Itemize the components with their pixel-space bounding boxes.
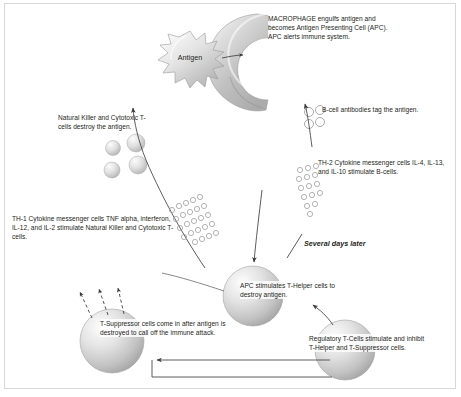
apc-to-tsuppressor-line [162, 273, 224, 291]
t-suppressor-label: T-Suppressor cells come in after antigen… [100, 319, 227, 337]
b-cell-tag-arrow [305, 104, 312, 147]
killer-cell-cluster [104, 134, 147, 178]
immune-system-diagram: MACROPHAGE engulfs antigen and becomes A… [0, 0, 461, 397]
nk-destroy-antigen-arrow [133, 108, 205, 268]
b-cell-label: B-cell antibodies tag the antigen. [322, 105, 422, 114]
apc-label: APC stimulates T-Helper cells to destroy… [240, 281, 352, 299]
th1-cytokine-label: TH-1 Cytokine messenger cells TNF alpha,… [12, 214, 178, 242]
regulatory-to-tsuppressor-path [152, 360, 332, 377]
regulatory-t-cell-label: Regulatory T-Cells stimulate and inhibit… [309, 334, 427, 352]
macrophage-label: MACROPHAGE engulfs antigen and becomes A… [268, 14, 393, 42]
several-days-later-label: Several days later [304, 239, 412, 248]
regulatory-to-apc-arrow [313, 305, 333, 325]
apc-incoming-arrow [254, 190, 262, 262]
several-days-later-tick [287, 234, 302, 258]
antigen-label: Antigen [163, 53, 217, 62]
th2-cytokine-label: TH-2 Cytokine messenger cells IL-4, IL-1… [318, 158, 448, 176]
natural-killer-label: Natural Killer and Cytotoxic T-cells des… [58, 113, 154, 131]
